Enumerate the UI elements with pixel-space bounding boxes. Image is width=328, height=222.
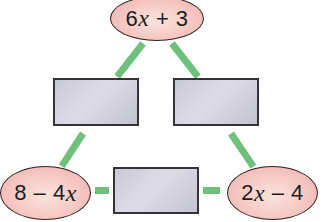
connector-top-right xyxy=(169,41,200,78)
node-right-variable: x xyxy=(254,180,265,207)
answer-box-bottom[interactable] xyxy=(113,167,199,214)
node-top-expression: 6x + 3 xyxy=(110,0,204,41)
arithmagon-diagram: 6x + 3 8 – 4x 2x – 4 xyxy=(0,0,328,222)
node-left-expression: 8 – 4x xyxy=(0,166,91,220)
connector-bottom-right xyxy=(203,187,220,194)
node-left-variable: x xyxy=(66,180,77,207)
node-right-pre: 2 xyxy=(241,180,254,206)
node-right-post: – 4 xyxy=(265,180,304,206)
connector-top-left xyxy=(114,41,145,78)
connector-bottom-left xyxy=(95,187,109,194)
node-top-post: + 3 xyxy=(149,6,188,32)
connector-right-bottom xyxy=(228,132,256,169)
node-top-pre: 6 xyxy=(125,6,138,32)
node-top-variable: x xyxy=(138,5,149,32)
connector-left-bottom xyxy=(59,132,86,169)
answer-box-top-left[interactable] xyxy=(53,78,139,126)
node-right-expression: 2x – 4 xyxy=(227,166,318,220)
node-left-pre: 8 – 4 xyxy=(14,180,65,206)
answer-box-top-right[interactable] xyxy=(173,78,259,126)
